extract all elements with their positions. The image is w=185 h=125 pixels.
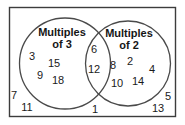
set-label-multiples-of-3-line2: of 3 xyxy=(52,38,72,50)
element-number: 2 xyxy=(127,55,133,67)
element-number: 13 xyxy=(152,102,164,114)
element-number: 9 xyxy=(37,69,43,81)
element-number: 14 xyxy=(132,75,144,87)
element-number: 15 xyxy=(48,57,60,69)
element-number: 10 xyxy=(111,77,123,89)
element-number: 12 xyxy=(88,63,100,75)
venn-diagram-canvas: Multiples of 3 Multiples of 2 3 15 9 18 … xyxy=(0,0,185,125)
set-label-multiples-of-2-line2: of 2 xyxy=(119,39,139,51)
element-number: 1 xyxy=(92,103,98,115)
element-number: 6 xyxy=(91,43,97,55)
element-number: 7 xyxy=(11,89,17,101)
set-label-multiples-of-3-line1: Multiples xyxy=(38,26,86,38)
element-number: 11 xyxy=(21,101,32,113)
element-number: 4 xyxy=(149,63,155,75)
element-number: 18 xyxy=(52,74,64,86)
element-number: 3 xyxy=(29,50,35,62)
element-number: 5 xyxy=(165,90,171,102)
set-label-multiples-of-2-line1: Multiples xyxy=(105,27,153,39)
element-number: 8 xyxy=(110,59,116,71)
venn-diagram: Multiples of 3 Multiples of 2 3 15 9 18 … xyxy=(0,0,185,125)
